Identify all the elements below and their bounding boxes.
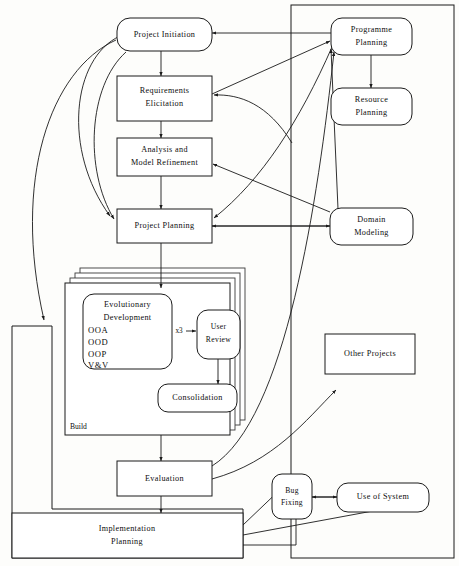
edge-initiation-arc-to-planning-a	[79, 36, 120, 216]
node-domain-modeling[interactable]	[330, 208, 413, 245]
label-programme-planning-line1: Programme	[351, 25, 392, 34]
label-ooa: OOA	[88, 325, 108, 335]
label-user-review-line2: Review	[206, 335, 231, 344]
node-resource-planning[interactable]	[331, 88, 412, 125]
label-project-planning: Project Planning	[135, 221, 195, 230]
label-bug-fixing-line1: Bug	[285, 486, 299, 495]
label-oop: OOP	[88, 349, 107, 359]
edge-domain-to-analysis	[213, 164, 330, 212]
label-implementation-line2: Planning	[111, 537, 143, 546]
label-iteration-count: x3	[175, 327, 183, 335]
label-analysis-line2: Model Refinement	[131, 158, 199, 167]
label-evaluation: Evaluation	[145, 474, 184, 483]
label-resource-planning-line2: Planning	[356, 108, 388, 117]
label-evolutionary-line1: Evolutionary	[104, 300, 152, 309]
process-flow-diagram: Project Initiation Requirements Elicitat…	[0, 0, 459, 566]
label-evolutionary-line2: Development	[104, 313, 152, 322]
label-other-projects: Other Projects	[344, 349, 396, 358]
node-implementation-planning[interactable]	[12, 513, 243, 558]
label-domain-modeling-line1: Domain	[357, 215, 385, 224]
label-project-initiation: Project Initiation	[134, 30, 196, 39]
label-analysis-line1: Analysis and	[141, 145, 188, 154]
label-domain-modeling-line2: Modeling	[354, 228, 389, 237]
label-build-container: Build	[70, 422, 87, 431]
edge-requirements-to-programme	[212, 41, 330, 94]
label-requirements-elicitation-line1: Requirements	[140, 86, 190, 95]
node-bug-fixing[interactable]	[272, 474, 312, 519]
label-requirements-elicitation-line2: Elicitation	[146, 99, 184, 108]
label-consolidation: Consolidation	[172, 393, 223, 402]
label-ood: OOD	[88, 337, 108, 347]
diagram-canvas: Project Initiation Requirements Elicitat…	[0, 0, 459, 566]
label-implementation-line1: Implementation	[99, 524, 156, 533]
label-use-of-system: Use of System	[357, 492, 410, 501]
edge-programme-to-project-planning	[214, 47, 332, 218]
label-resource-planning-line1: Resource	[355, 95, 388, 104]
label-user-review-line1: User	[211, 322, 227, 331]
node-programme-planning[interactable]	[331, 18, 412, 55]
label-bug-fixing-line2: Fixing	[281, 498, 303, 507]
label-programme-planning-line2: Planning	[356, 38, 388, 47]
label-vandv: V&V	[88, 360, 109, 370]
edge-context-to-requirements	[214, 95, 292, 143]
